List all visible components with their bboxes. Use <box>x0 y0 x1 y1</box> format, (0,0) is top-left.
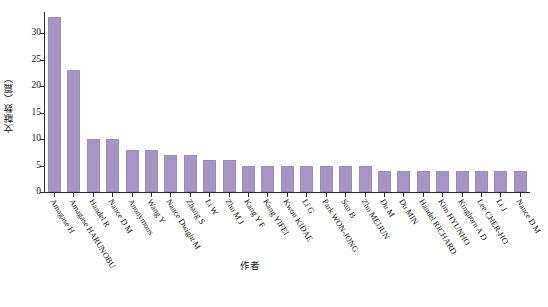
x-axis-label-slot: Kang YIFEI <box>261 196 274 291</box>
bar <box>494 171 507 192</box>
x-axis-category-label: Li W <box>203 198 219 217</box>
bar <box>106 139 119 192</box>
bar <box>67 70 80 192</box>
bar <box>281 166 294 192</box>
bar <box>300 166 313 192</box>
x-axis-label-slot: Lee CHER-HO <box>475 196 488 291</box>
plot-area: 051015202530 <box>44 12 530 193</box>
x-axis-label-slot: Kinghorn A D <box>456 196 469 291</box>
bar <box>378 171 391 192</box>
x-axis-label-slot: Nance D M <box>106 196 119 291</box>
x-axis-title: 作者 <box>240 258 260 272</box>
x-axis-category-label: Du M <box>378 198 395 219</box>
y-axis-tick-label: 20 <box>32 81 42 91</box>
x-axis-label-slot: Handel R <box>87 196 100 291</box>
x-axis-label-slot: Zhu MEIJUN <box>359 196 372 291</box>
x-axis-label-slot: Kwon KIDAE <box>281 196 294 291</box>
x-axis-label-slot: Li J <box>494 196 507 291</box>
x-axis-label-slot: Anonymous <box>126 196 139 291</box>
y-axis-tick-label: 15 <box>32 108 42 118</box>
bar <box>339 166 352 192</box>
x-axis-label-slot: Li W <box>203 196 216 291</box>
y-axis-tick-label: 25 <box>32 55 42 65</box>
bar <box>48 17 61 192</box>
bar <box>475 171 488 192</box>
x-axis-category-label: Li G <box>300 198 315 216</box>
bar <box>164 155 177 192</box>
bar <box>261 166 274 192</box>
x-axis-label-slot: Li G <box>300 196 313 291</box>
bar <box>397 171 410 192</box>
y-axis-tick-label: 5 <box>36 161 41 171</box>
bar <box>320 166 333 192</box>
bar <box>242 166 255 192</box>
bar <box>417 171 430 192</box>
bar <box>184 155 197 192</box>
bar <box>359 166 372 192</box>
y-axis-tick-label: 10 <box>32 134 42 144</box>
bar <box>203 160 216 192</box>
x-axis-label-slot: Zhu M J <box>223 196 236 291</box>
bar-chart-figure: 文献数（篇） 051015202530 Amagase HAmagase HAR… <box>0 0 548 307</box>
bar <box>436 171 449 192</box>
y-axis-tick-label: 0 <box>36 187 41 197</box>
bar-series <box>45 12 530 192</box>
x-axis-label-slot: Du M <box>378 196 391 291</box>
y-axis-tick-label: 30 <box>32 28 42 38</box>
bar <box>145 150 158 192</box>
x-axis-label-slot: Park WON-JONG <box>320 196 333 291</box>
bar <box>87 139 100 192</box>
x-axis-category-label: Sun B <box>339 198 357 220</box>
x-axis-label-slot: Handel RICHARD <box>417 196 430 291</box>
x-axis-label-slot: Kang Y F <box>242 196 255 291</box>
bar <box>514 171 527 192</box>
x-axis-label-slot: Kim HYUNHO <box>436 196 449 291</box>
y-axis-title: 文献数（篇） <box>0 38 18 168</box>
x-axis-label-slot: Du MIN <box>397 196 410 291</box>
x-axis-category-label: Nance D M <box>514 198 542 235</box>
bar <box>223 160 236 192</box>
bar <box>456 171 469 192</box>
x-axis-label-slot: Nance Dwight M <box>164 196 177 291</box>
x-axis-label-slot: Zhang S <box>184 196 197 291</box>
x-axis-label-slot: Wang Y <box>145 196 158 291</box>
x-axis-category-labels: Amagase HAmagase HARUNOBUHandel RNance D… <box>45 196 530 291</box>
x-axis-label-slot: Sun B <box>339 196 352 291</box>
x-axis-label-slot: Amagase HARUNOBU <box>67 196 80 291</box>
x-axis-category-label: Li J <box>494 198 508 213</box>
x-axis-label-slot: Nance D M <box>514 196 527 291</box>
bar <box>126 150 139 192</box>
x-axis-label-slot: Amagase H <box>48 196 61 291</box>
